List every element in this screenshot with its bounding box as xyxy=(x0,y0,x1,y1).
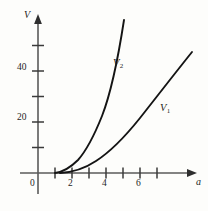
x-tick-label-6: 6 xyxy=(136,179,141,189)
y-tick-label-40: 40 xyxy=(17,63,27,73)
x-axis-label: a xyxy=(196,177,201,187)
curve-v1 xyxy=(60,52,192,173)
curve-label-v2: V2 xyxy=(113,58,123,70)
curve-label-v1: V1 xyxy=(160,103,170,115)
x-tick-label-0: 0 xyxy=(30,179,35,189)
x-tick-label-4: 4 xyxy=(102,179,107,189)
y-axis-arrowhead xyxy=(34,14,42,24)
y-axis-label: V xyxy=(24,10,30,22)
x-tick-label-2: 2 xyxy=(68,179,73,189)
curve-v2 xyxy=(55,20,124,173)
y-tick-label-20: 20 xyxy=(17,113,27,123)
figure-container: V a 40 20 0 2 4 6 V2 V1 xyxy=(0,0,208,211)
